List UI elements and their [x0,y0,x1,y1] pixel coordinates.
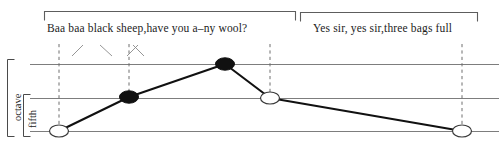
note-markers [50,58,472,137]
note-marker-filled-second [120,91,139,103]
bracket-phrase-first [45,12,296,21]
bracket-phrase-second [301,13,478,22]
note-marker-filled-peak [216,58,235,70]
syllable-leader-ticks [72,45,144,56]
leader-tick-a [72,45,83,56]
phrase-label-first: Baa baa black sheep,have you a–ny wool? [47,22,247,34]
phrase-brackets [45,12,478,22]
note-marker-open-final [453,125,472,137]
leader-tick-c [133,45,144,56]
interval-label-octave: octave [12,94,23,121]
phrase-label-second: Yes sir, yes sir,three bags full [313,22,452,34]
note-marker-open-start [50,125,69,137]
pitch-contour-figure: Baa baa black sheep,have you a–ny wool? … [0,0,499,144]
leader-tick-b [100,45,112,56]
note-leader-lines [59,44,462,128]
interval-label-fifth: fifth [27,110,38,128]
note-marker-open-midcadence [261,92,280,104]
